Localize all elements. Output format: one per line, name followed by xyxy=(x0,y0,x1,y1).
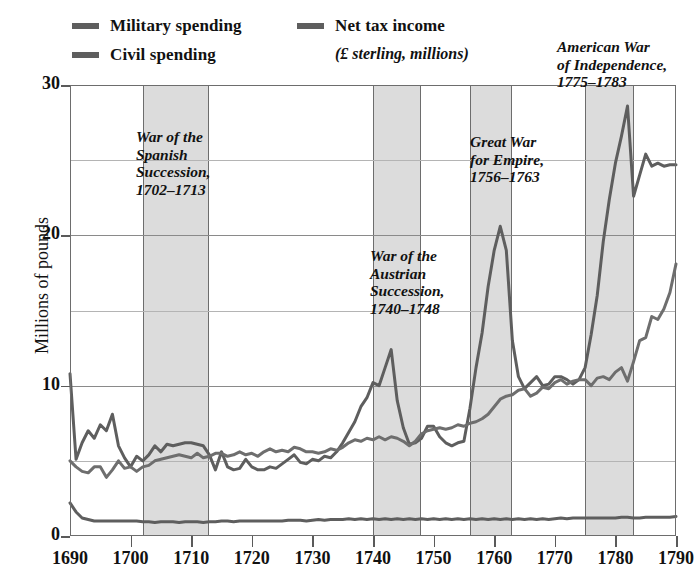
y-tickmark xyxy=(61,536,70,538)
x-tick-label: 1690 xyxy=(38,548,102,569)
annotation-war-of-the-spanish-succession: War of the Spanish Succession, 1702–1713 xyxy=(136,128,211,199)
x-tick-label: 1710 xyxy=(159,548,223,569)
legend-swatch-civil xyxy=(72,52,99,58)
legend-label-civil: Civil spending xyxy=(110,45,216,65)
x-tick-label: 1760 xyxy=(462,548,526,569)
legend-label-tax: Net tax income xyxy=(335,16,445,36)
x-tickmark xyxy=(312,536,314,547)
legend-label-military: Military spending xyxy=(110,16,242,36)
x-tick-label: 1730 xyxy=(280,548,344,569)
annotation-war-of-the-austrian-succession: War of the Austrian Succession, 1740–174… xyxy=(370,247,445,318)
x-tickmark xyxy=(191,536,193,547)
legend-entry-net-tax-income: Net tax income xyxy=(297,16,445,36)
y-axis-title: Millions of pounds xyxy=(32,166,53,406)
legend-entry-civil-spending: Civil spending xyxy=(72,45,216,65)
x-tick-label: 1790 xyxy=(644,548,695,569)
x-tickmark xyxy=(676,536,678,547)
legend-entry-military-spending: Military spending xyxy=(72,16,242,36)
y-tick-label: 30 xyxy=(20,73,60,94)
x-tick-label: 1740 xyxy=(341,548,405,569)
y-tick-label: 20 xyxy=(20,223,60,244)
x-tickmark xyxy=(555,536,557,547)
chart-figure: Military spending Civil spending Net tax… xyxy=(0,0,695,586)
y-tick-label: 0 xyxy=(20,524,60,545)
x-tickmark xyxy=(252,536,254,547)
y-tickmark xyxy=(61,85,70,87)
y-tickmark xyxy=(61,386,70,388)
annotation-great-war-for-empire: Great War for Empire, 1756–1763 xyxy=(470,133,544,186)
x-tickmark xyxy=(373,536,375,547)
x-tick-label: 1780 xyxy=(583,548,647,569)
legend-swatch-military xyxy=(72,23,99,29)
x-tickmark xyxy=(434,536,436,547)
legend-swatch-tax xyxy=(297,23,324,29)
x-tick-label: 1750 xyxy=(402,548,466,569)
y-tickmark xyxy=(61,235,70,237)
x-tickmark xyxy=(494,536,496,547)
y-tick-label: 10 xyxy=(20,374,60,395)
x-tick-label: 1720 xyxy=(220,548,284,569)
x-tick-label: 1700 xyxy=(99,548,163,569)
x-tick-label: 1770 xyxy=(523,548,587,569)
x-tickmark xyxy=(131,536,133,547)
x-tickmark xyxy=(615,536,617,547)
legend-units-label: (£ sterling, millions) xyxy=(335,45,469,63)
annotation-american-war-of-independence: American War of Independence, 1775–1783 xyxy=(557,38,667,91)
